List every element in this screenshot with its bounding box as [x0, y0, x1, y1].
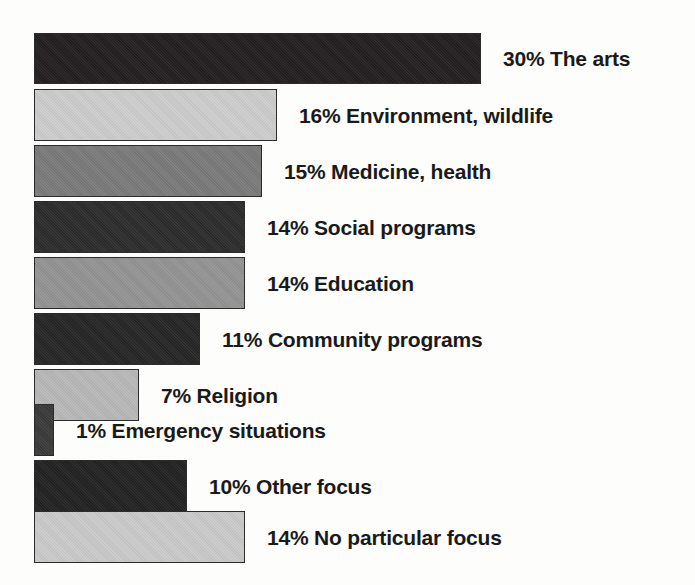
bar-row: 11% Community programs — [0, 313, 695, 365]
bar — [34, 404, 54, 456]
bar-label: 14% No particular focus — [267, 527, 502, 548]
bar-row: 14% No particular focus — [0, 511, 695, 563]
bar-row: 14% Education — [0, 257, 695, 309]
bar-label: 30% The arts — [503, 48, 630, 69]
bar — [34, 257, 245, 309]
bar — [34, 313, 200, 365]
bar-label: 14% Education — [267, 273, 414, 294]
bar-row: 14% Social programs — [0, 201, 695, 253]
bar-label: 7% Religion — [161, 385, 278, 406]
bar — [34, 145, 262, 197]
bar-label: 16% Environment, wildlife — [299, 105, 553, 126]
bar — [34, 89, 277, 141]
bar — [34, 33, 481, 84]
bar-chart: 30% The arts16% Environment, wildlife15%… — [0, 0, 695, 585]
bar-row: 10% Other focus — [0, 460, 695, 512]
bar-label: 14% Social programs — [267, 217, 476, 238]
bar-label: 11% Community programs — [222, 329, 483, 350]
bar — [34, 511, 245, 563]
bar-row: 1% Emergency situations — [0, 404, 695, 456]
bar-row: 16% Environment, wildlife — [0, 89, 695, 141]
bar — [34, 201, 245, 253]
bar-row: 30% The arts — [0, 33, 695, 84]
bar — [34, 460, 187, 512]
bar-label: 1% Emergency situations — [76, 420, 326, 441]
bar-label: 10% Other focus — [209, 476, 372, 497]
bar-row: 15% Medicine, health — [0, 145, 695, 197]
bar-label: 15% Medicine, health — [284, 161, 491, 182]
